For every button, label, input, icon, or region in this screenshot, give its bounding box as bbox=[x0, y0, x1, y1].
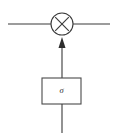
gate-to-multiplier-arrowhead bbox=[59, 37, 66, 48]
diagram-canvas: σ bbox=[0, 0, 119, 140]
gated-multiplication-diagram: σ bbox=[0, 0, 119, 140]
